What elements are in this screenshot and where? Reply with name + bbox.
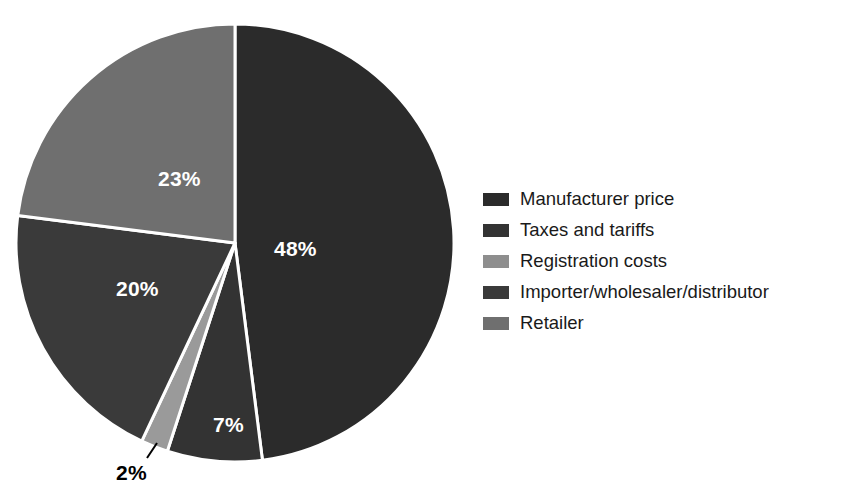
chart-legend: Manufacturer priceTaxes and tariffsRegis… <box>483 184 853 339</box>
pie-slice-group <box>16 24 454 462</box>
legend-item[interactable]: Manufacturer price <box>483 184 853 215</box>
legend-item[interactable]: Retailer <box>483 308 853 339</box>
pie-chart-plot-area: 48% 23% 20% 7% 2% <box>0 0 480 503</box>
legend-item-label: Retailer <box>520 314 584 333</box>
legend-item-label: Registration costs <box>520 252 667 271</box>
slice-value-label-retailer: 23% <box>158 168 201 189</box>
legend-swatch-icon <box>483 286 509 299</box>
slice-value-label-manufacturer-price: 48% <box>274 238 317 259</box>
legend-item[interactable]: Registration costs <box>483 246 853 277</box>
legend-swatch-icon <box>483 317 509 330</box>
slice-value-label-taxes-and-tariffs: 7% <box>213 414 244 435</box>
legend-swatch-icon <box>483 224 509 237</box>
legend-swatch-icon <box>483 255 509 268</box>
legend-item-label: Manufacturer price <box>520 190 674 209</box>
legend-swatch-icon <box>483 193 509 206</box>
legend-item[interactable]: Taxes and tariffs <box>483 215 853 246</box>
pie-slice <box>235 24 454 460</box>
slice-value-label-registration-costs: 2% <box>116 462 147 483</box>
legend-item[interactable]: Importer/wholesaler/distributor <box>483 277 853 308</box>
legend-item-label: Taxes and tariffs <box>520 221 654 240</box>
pie-chart-figure: 48% 23% 20% 7% 2% Manufacturer priceTaxe… <box>0 0 862 503</box>
slice-value-label-importer-wholesaler-distributor: 20% <box>116 278 159 299</box>
pie-slice <box>18 24 235 243</box>
legend-item-label: Importer/wholesaler/distributor <box>520 283 769 302</box>
